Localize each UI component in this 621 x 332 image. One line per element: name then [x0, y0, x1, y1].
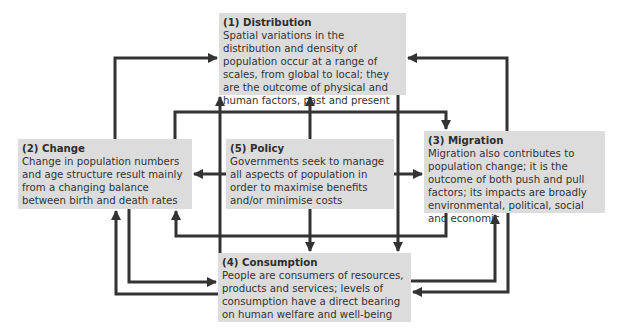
node-policy-text: Governments seek to manage all aspects o…	[230, 155, 390, 207]
node-consumption-title: (4) Consumption	[222, 256, 407, 269]
node-policy: (5) Policy Governments seek to manage al…	[226, 139, 394, 209]
node-change: (2) Change Change in population numbers …	[18, 139, 192, 209]
node-distribution-text: Spatial variations in the distribution a…	[223, 29, 402, 107]
arrow-migration-to-distribution	[408, 58, 507, 131]
node-change-text: Change in population numbers and age str…	[22, 155, 188, 207]
arrow-change-to-consumption	[129, 209, 216, 282]
node-migration-title: (3) Migration	[428, 134, 601, 147]
node-migration: (3) Migration Migration also contributes…	[424, 131, 605, 213]
node-consumption: (4) Consumption People are consumers of …	[218, 253, 411, 322]
node-distribution-title: (1) Distribution	[223, 16, 402, 29]
node-consumption-text: People are consumers of resources, produ…	[222, 269, 407, 321]
node-change-title: (2) Change	[22, 142, 188, 155]
node-distribution: (1) Distribution Spatial variations in t…	[219, 13, 406, 95]
arrow-change-to-distribution	[115, 58, 217, 139]
node-policy-title: (5) Policy	[230, 142, 390, 155]
node-migration-text: Migration also contributes to population…	[428, 147, 601, 225]
